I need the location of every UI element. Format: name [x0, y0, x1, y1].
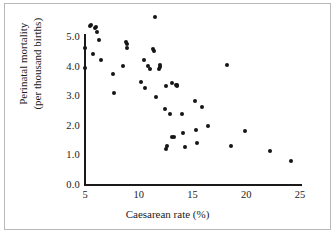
y-tick-label: 5.0: [66, 31, 80, 42]
data-point: [99, 58, 103, 62]
plot-data-area: [85, 36, 300, 184]
y-tick-label: 1.0: [66, 149, 80, 160]
data-point: [180, 112, 184, 116]
y-tick-label: 2.0: [66, 119, 80, 130]
data-point: [139, 80, 143, 84]
data-point: [97, 38, 101, 42]
data-point: [153, 15, 157, 19]
x-tick-label: 15: [187, 189, 198, 200]
data-point: [158, 65, 162, 69]
data-point: [164, 84, 168, 88]
data-point: [95, 30, 99, 34]
data-point: [94, 25, 98, 29]
data-point: [200, 105, 204, 109]
data-point: [170, 135, 174, 139]
data-point: [148, 67, 152, 71]
data-point: [243, 129, 247, 133]
data-point: [142, 58, 146, 62]
data-point: [83, 46, 87, 50]
data-point: [164, 147, 168, 151]
data-point: [225, 63, 229, 67]
data-point: [154, 95, 158, 99]
x-axis-title: Caesarean rate (%): [0, 208, 335, 220]
data-point: [91, 52, 95, 56]
scatter-plot-figure: 0.01.02.03.04.05.0 510152025 Perinatal m…: [0, 0, 335, 235]
data-point: [112, 91, 116, 95]
data-point: [194, 128, 198, 132]
data-point: [229, 144, 233, 148]
y-axis-title-line2: (per thousand births): [31, 0, 45, 144]
data-point: [121, 64, 125, 68]
data-point: [165, 144, 169, 148]
x-tick-label: 25: [295, 189, 306, 200]
x-tick-label: 5: [82, 189, 87, 200]
y-axis-title: Perinatal mortality (per thousand births…: [17, 0, 45, 144]
data-point: [143, 86, 147, 90]
data-point: [152, 49, 156, 53]
x-axis-line: [84, 184, 302, 186]
y-tick-label: 4.0: [66, 60, 80, 71]
data-point: [193, 99, 197, 103]
data-point: [181, 131, 185, 135]
x-tick-label: 10: [134, 189, 145, 200]
data-point: [289, 159, 293, 163]
data-point: [168, 112, 172, 116]
data-point: [183, 145, 187, 149]
data-point: [268, 149, 272, 153]
data-point: [195, 141, 199, 145]
data-point: [175, 84, 179, 88]
y-tick-label: 3.0: [66, 90, 80, 101]
data-point: [83, 66, 87, 70]
y-axis-title-line1: Perinatal mortality: [17, 0, 31, 144]
y-tick-label: 0.0: [66, 179, 80, 190]
data-point: [111, 72, 115, 76]
x-tick-label: 20: [241, 189, 252, 200]
data-point: [125, 46, 129, 50]
y-axis-tick-labels: 0.01.02.03.04.05.0: [48, 0, 80, 235]
data-point: [163, 107, 167, 111]
data-point: [206, 124, 210, 128]
